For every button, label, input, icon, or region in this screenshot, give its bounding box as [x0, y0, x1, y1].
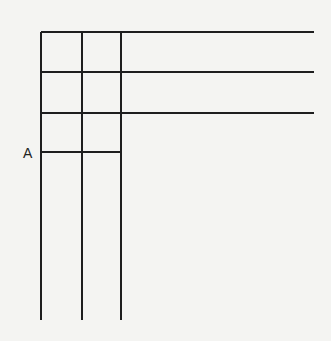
grid-diagram	[0, 0, 331, 341]
point-label-a: A	[23, 146, 32, 160]
vertical-lines	[41, 32, 121, 320]
